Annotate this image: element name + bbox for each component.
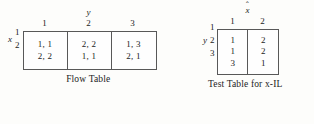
- flow-table-figure: x 1 2 y 1 2 3 1, 1: [8, 8, 157, 85]
- test-table-cell-3-1: 3: [231, 58, 236, 70]
- test-table-row-header-2: 2: [210, 34, 215, 47]
- flow-table-cell-3-top: 1, 3: [126, 39, 140, 51]
- test-table-grid: 1 1 3 2 2 1: [217, 29, 279, 75]
- flow-table-cell-col-2: 2, 2 1, 1: [68, 32, 112, 69]
- flow-table-cell-1-top: 1, 1: [38, 39, 52, 51]
- flow-table-cell-1-bottom: 2, 2: [38, 51, 52, 63]
- flow-table-col-variable-line: y: [23, 8, 157, 19]
- circumflex-accent-icon: ˆ: [232, 2, 262, 10]
- test-table-body: ˆ x 1 2 1 1 3 2 2: [217, 6, 279, 75]
- test-table-row-gutter: y 1 2 3: [203, 6, 218, 75]
- test-table-row-header-1: 1: [210, 21, 215, 34]
- test-table-cell-1-2: 2: [261, 35, 266, 47]
- flow-table-col-header-2: 2: [67, 19, 111, 31]
- test-table-col-variable-line: ˆ x: [217, 6, 279, 17]
- test-table-caption: Test Table for x-IL: [208, 80, 282, 90]
- test-table-cell-col-1: 1 1 3: [218, 30, 248, 74]
- test-table-col-variable-label: ˆ x: [232, 6, 262, 15]
- flow-table-caption: Flow Table: [66, 75, 110, 85]
- test-table-cell-1-1: 1: [231, 35, 236, 47]
- flow-table-row-headers: 1 2: [15, 8, 23, 70]
- flow-table-cell-3-bottom: 2, 1: [126, 51, 140, 63]
- test-table-cell-col-2: 2 2 1: [248, 30, 278, 74]
- flow-table-row-header-1: 1: [15, 26, 20, 39]
- flow-table-cell-col-1: 1, 1 2, 2: [24, 32, 68, 69]
- test-table-area: y 1 2 3 ˆ x 1 2: [203, 6, 280, 75]
- test-table-row-variable-label: y: [203, 6, 210, 75]
- flow-table-grid: 1, 1 2, 2 2, 2 1, 1 1, 3 2, 1: [23, 31, 157, 70]
- test-table-col-headers: 1 2: [217, 17, 279, 29]
- test-table-cell-2-2: 2: [261, 46, 266, 58]
- test-table-col-header-2: 2: [247, 17, 277, 29]
- flow-table-cell-2-bottom: 1, 1: [82, 51, 96, 63]
- flow-table-col-variable-label: y: [67, 8, 111, 17]
- flow-table-area: x 1 2 y 1 2 3 1, 1: [8, 8, 157, 70]
- flow-table-row-header-2: 2: [15, 39, 20, 52]
- test-table-col-header-1: 1: [217, 17, 247, 29]
- flow-table-col-header-1: 1: [23, 19, 67, 31]
- test-table-row-header-3: 3: [210, 47, 215, 60]
- figure-container: x 1 2 y 1 2 3 1, 1: [0, 0, 314, 124]
- flow-table-body: y 1 2 3 1, 1 2, 2 2, 2 1, 1: [23, 8, 157, 70]
- flow-table-row-gutter: x 1 2: [8, 8, 23, 70]
- test-table-cell-3-2: 1: [261, 58, 266, 70]
- flow-table-cell-2-top: 2, 2: [82, 39, 96, 51]
- test-table-cell-2-1: 1: [231, 46, 236, 58]
- flow-table-col-headers: 1 2 3: [23, 19, 157, 31]
- test-table-row-headers: 1 2 3: [210, 6, 218, 75]
- test-table-figure: y 1 2 3 ˆ x 1 2: [200, 6, 282, 90]
- flow-table-row-variable-label: x: [8, 8, 15, 70]
- flow-table-col-header-3: 3: [111, 19, 155, 31]
- flow-table-cell-col-3: 1, 3 2, 1: [112, 32, 156, 69]
